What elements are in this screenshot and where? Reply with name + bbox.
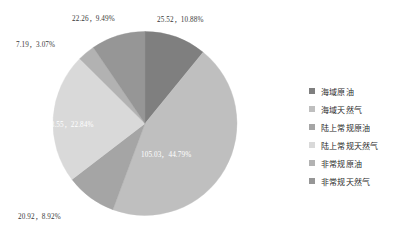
legend-item[interactable]: 海域原油 — [309, 82, 409, 100]
legend-item-label: 非常规天然气 — [321, 176, 370, 187]
slice-label-lushang-changgui-tianranqi: 53.55，22.84% — [47, 119, 94, 129]
pie-plot-area: 25.52，10.88% 22.26，9.49% 7.19，3.07% 20.9… — [0, 0, 290, 247]
legend-swatch-icon — [309, 124, 315, 130]
legend-swatch-icon — [309, 160, 315, 166]
legend-item[interactable]: 海域天然气 — [309, 100, 409, 118]
chart-legend: 海域原油海域天然气陆上常规原油陆上常规天然气非常规原油非常规天然气 — [309, 82, 409, 190]
legend-item-label: 海域天然气 — [321, 104, 362, 115]
legend-item-label: 陆上常规原油 — [321, 122, 370, 133]
legend-item[interactable]: 非常规原油 — [309, 154, 409, 172]
legend-item[interactable]: 陆上常规原油 — [309, 118, 409, 136]
legend-swatch-icon — [309, 142, 315, 148]
legend-swatch-icon — [309, 178, 315, 184]
legend-item-label: 海域原油 — [321, 86, 354, 97]
legend-item-label: 非常规原油 — [321, 158, 362, 169]
slice-label-feichanggui-tianranqi: 22.26，9.49% — [72, 13, 115, 23]
slice-label-haiyu-tianranqi: 105.03，44.79% — [141, 149, 191, 159]
slice-label-lushang-changgui-yuanyou: 20.92，8.92% — [18, 211, 61, 221]
slice-label-haiyu-yuanyou: 25.52，10.88% — [157, 14, 204, 24]
legend-item[interactable]: 陆上常规天然气 — [309, 136, 409, 154]
legend-swatch-icon — [309, 106, 315, 112]
slice-label-feichanggui-yuanyou: 7.19，3.07% — [16, 39, 55, 49]
pie-svg — [0, 0, 290, 247]
legend-swatch-icon — [309, 88, 315, 94]
legend-item-label: 陆上常规天然气 — [321, 140, 378, 151]
legend-item[interactable]: 非常规天然气 — [309, 172, 409, 190]
pie-chart-figure: 25.52，10.88% 22.26，9.49% 7.19，3.07% 20.9… — [0, 0, 409, 247]
